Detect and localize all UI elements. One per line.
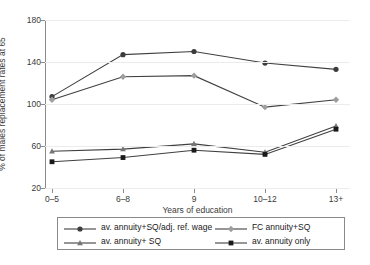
data-point-marker-circle — [333, 67, 338, 72]
data-point-marker-square — [263, 152, 268, 157]
chart-figure: % of males replacement rates at 65 20601… — [0, 0, 370, 265]
x-axis-title: Years of education — [45, 205, 350, 215]
plot-area — [45, 20, 350, 188]
x-axis-tick — [336, 189, 337, 193]
y-axis-tick-label: 100 — [27, 99, 41, 109]
x-axis-tick — [265, 189, 266, 193]
x-axis-tick — [123, 189, 124, 193]
legend-marker-diamond-icon — [214, 221, 248, 233]
x-axis-tick — [194, 189, 195, 193]
gridline — [45, 62, 350, 63]
y-axis-tick-labels: 2060100140180 — [0, 20, 41, 188]
data-point-marker-diamond — [333, 97, 339, 103]
data-point-marker-square — [192, 148, 197, 153]
legend-label: av. annuity only — [248, 236, 310, 246]
legend-entry-2[interactable]: av. annuity+ SQ — [58, 234, 214, 248]
y-axis-tick — [40, 104, 45, 105]
y-axis-tick — [40, 62, 45, 63]
legend-label: av. annuity+ SQ — [97, 236, 161, 246]
legend-entry-0[interactable]: av. annuity+SQ/adj. ref. wage — [58, 220, 214, 234]
y-axis-tick-label: 180 — [27, 15, 41, 25]
x-axis-tick-label: 6–8 — [116, 194, 130, 204]
gridline — [45, 104, 350, 105]
gridline — [45, 146, 350, 147]
data-point-marker-diamond — [191, 72, 197, 78]
legend-label: av. annuity+SQ/adj. ref. wage — [97, 222, 212, 232]
x-axis-ticks — [45, 189, 350, 193]
series-line — [52, 76, 336, 108]
legend-marker-circle-icon — [63, 221, 97, 233]
data-point-marker-square — [334, 127, 339, 132]
legend-marker-square-icon — [214, 235, 248, 247]
legend-label: FC annuity+SQ — [248, 222, 310, 232]
data-point-marker-circle — [191, 49, 196, 54]
legend-row: av. annuity+ SQ av. annuity only — [58, 234, 344, 248]
legend-entry-1[interactable]: FC annuity+SQ — [214, 220, 344, 234]
x-axis-tick-label: 13+ — [329, 194, 343, 204]
y-axis-tick — [40, 146, 45, 147]
chart-legend: av. annuity+SQ/adj. ref. wage FC annuity… — [57, 217, 345, 250]
x-axis-tick-label: 10–12 — [253, 194, 277, 204]
data-point-marker-square — [121, 155, 126, 160]
legend-marker-triangle-icon — [63, 235, 97, 247]
data-point-marker-diamond — [228, 226, 234, 232]
data-point-marker-square — [50, 159, 55, 164]
x-axis-tick-label: 9 — [192, 194, 197, 204]
legend-entry-3[interactable]: av. annuity only — [214, 234, 344, 248]
legend-row: av. annuity+SQ/adj. ref. wage FC annuity… — [58, 220, 344, 234]
data-point-marker-square — [229, 241, 234, 246]
y-axis-tick-label: 140 — [27, 57, 41, 67]
x-axis-tick-label: 0–5 — [45, 194, 59, 204]
x-axis-tick — [52, 189, 53, 193]
data-point-marker-circle — [77, 226, 82, 231]
y-axis-tick — [40, 20, 45, 21]
data-point-marker-diamond — [120, 74, 126, 80]
gridline — [45, 20, 350, 21]
data-point-marker-circle — [120, 52, 125, 57]
